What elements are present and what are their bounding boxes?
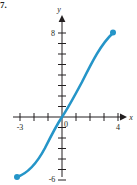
x-axis-arrowhead: [120, 114, 127, 121]
y-axis-label: y: [56, 5, 61, 14]
figure-container: 7. y x 8 -6 -3 0 4: [0, 0, 137, 185]
x-axis-label: x: [128, 113, 133, 122]
left-endpoint-dot: [14, 174, 20, 180]
x-tick-label-4: 4: [116, 123, 120, 132]
y-axis-arrowhead: [59, 15, 66, 22]
function-curve: [17, 33, 113, 177]
origin-label: 0: [64, 120, 68, 129]
problem-number-label: 7.: [0, 0, 7, 10]
y-tick-label--6: -6: [49, 175, 56, 184]
right-endpoint-dot: [110, 30, 116, 36]
coordinate-plane-graph: 7. y x 8 -6 -3 0 4: [0, 0, 137, 185]
y-tick-label-8: 8: [51, 29, 55, 38]
x-tick-label--3: -3: [17, 123, 24, 132]
